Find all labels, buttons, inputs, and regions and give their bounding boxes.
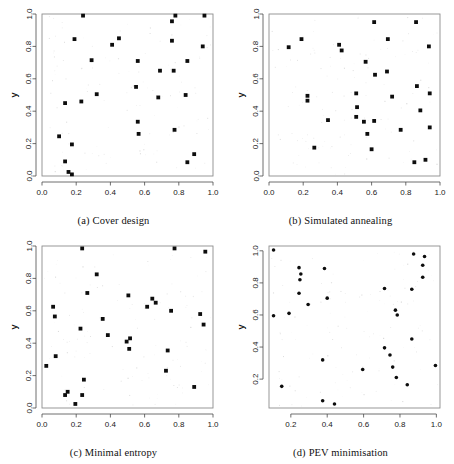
- panel-d-tag: (d): [293, 447, 306, 458]
- data-point: [354, 115, 358, 119]
- scatter-svg-d: 0.20.40.60.81.0x0.20.40.60.81.0y: [227, 232, 454, 432]
- x-tick-label-a-3: 0.6: [139, 188, 151, 197]
- data-point: [172, 69, 176, 73]
- data-point: [150, 297, 154, 301]
- data-point: [410, 288, 414, 292]
- data-point: [434, 364, 438, 368]
- data-point: [423, 255, 427, 259]
- data-point: [95, 272, 99, 276]
- data-point: [106, 333, 110, 337]
- data-point: [185, 160, 189, 164]
- panel-a-caption: (a)Cover design: [0, 215, 227, 226]
- data-point: [300, 37, 304, 41]
- panel-c-title: Minimal entropy: [85, 447, 157, 458]
- data-point: [372, 119, 376, 123]
- data-point: [137, 132, 141, 136]
- data-point: [272, 314, 276, 318]
- data-point: [85, 291, 89, 295]
- panel-a-tag: (a): [78, 215, 90, 226]
- data-point: [90, 58, 94, 62]
- data-point: [321, 399, 325, 403]
- data-point: [298, 278, 302, 282]
- data-point: [333, 402, 337, 406]
- panel-d-caption: (d)PEV minimisation: [227, 447, 454, 458]
- background-speckle-d: [271, 251, 438, 406]
- panel-a-title: Cover design: [93, 215, 150, 226]
- data-point: [395, 313, 399, 317]
- y-tick-label-c-2: 0.4: [25, 337, 34, 349]
- y-tick-label-b-2: 0.4: [252, 105, 261, 117]
- data-point: [203, 250, 207, 254]
- y-tick-label-a-4: 0.8: [25, 40, 34, 52]
- data-point: [365, 132, 369, 136]
- data-point: [184, 93, 188, 97]
- figure-grid: 0.00.20.40.60.81.0x0.00.20.40.60.81.0y (…: [0, 0, 454, 464]
- data-point: [192, 152, 196, 156]
- data-point: [125, 340, 129, 344]
- data-point: [170, 39, 174, 43]
- data-point: [354, 91, 358, 95]
- panel-b-tag: (b): [289, 215, 302, 226]
- x-tick-label-a-2: 0.4: [105, 188, 117, 197]
- data-point: [412, 252, 416, 256]
- data-point: [73, 402, 77, 406]
- data-point: [81, 14, 85, 18]
- plot-d: 0.20.40.60.81.0x0.20.40.60.81.0y: [227, 232, 454, 432]
- data-point: [364, 60, 368, 64]
- x-tick-label-d-1: 0.4: [322, 420, 334, 429]
- x-tick-label-c-2: 0.4: [105, 420, 117, 429]
- data-point: [73, 37, 77, 41]
- data-point: [280, 385, 284, 389]
- data-point: [297, 266, 301, 270]
- data-point: [405, 383, 409, 387]
- data-point: [66, 390, 70, 394]
- data-point: [101, 317, 105, 321]
- data-point: [410, 337, 414, 341]
- data-point: [373, 73, 377, 77]
- data-point: [117, 36, 121, 40]
- data-point: [415, 84, 419, 88]
- x-axis-a: 0.00.20.40.60.81.0x: [36, 182, 219, 200]
- x-tick-label-b-3: 0.6: [366, 188, 378, 197]
- data-point: [169, 309, 173, 313]
- data-point: [414, 20, 418, 24]
- data-point: [362, 120, 366, 124]
- data-point: [63, 101, 67, 105]
- x-tick-label-b-4: 0.8: [400, 188, 412, 197]
- data-point: [80, 393, 84, 397]
- data-point: [192, 385, 196, 389]
- x-axis-b: 0.00.20.40.60.81.0x: [263, 182, 446, 200]
- data-point: [110, 43, 114, 47]
- x-tick-label-d-4: 1.0: [431, 420, 443, 429]
- plot-frame-d: [269, 246, 440, 408]
- x-tick-label-b-1: 0.2: [298, 188, 310, 197]
- plot-frame-c: [42, 246, 213, 408]
- data-point: [287, 45, 291, 49]
- data-point: [170, 19, 174, 23]
- data-point: [173, 14, 177, 18]
- x-tick-label-c-4: 0.8: [173, 420, 185, 429]
- data-point: [70, 143, 74, 147]
- data-point: [198, 312, 202, 316]
- y-tick-label-b-4: 0.8: [252, 40, 261, 52]
- panel-a: 0.00.20.40.60.81.0x0.00.20.40.60.81.0y (…: [0, 0, 227, 232]
- data-point: [201, 45, 205, 49]
- data-point: [134, 85, 138, 89]
- data-point: [306, 94, 310, 98]
- data-point: [424, 158, 428, 162]
- y-axis-d: 0.20.40.60.81.0y: [236, 245, 263, 385]
- data-point: [63, 393, 67, 397]
- data-point: [412, 160, 416, 164]
- y-tick-label-c-1: 0.2: [25, 369, 34, 381]
- data-point: [427, 45, 431, 49]
- x-tick-label-a-5: 1.0: [207, 188, 219, 197]
- data-point: [95, 92, 99, 96]
- data-point: [173, 128, 177, 132]
- data-point: [127, 347, 131, 351]
- data-point: [173, 247, 177, 251]
- scatter-svg-a: 0.00.20.40.60.81.0x0.00.20.40.60.81.0y: [0, 0, 227, 200]
- data-point: [164, 369, 168, 373]
- x-tick-label-b-0: 0.0: [263, 188, 275, 197]
- panel-b-title: Simulated annealing: [304, 215, 392, 226]
- data-point: [306, 99, 310, 103]
